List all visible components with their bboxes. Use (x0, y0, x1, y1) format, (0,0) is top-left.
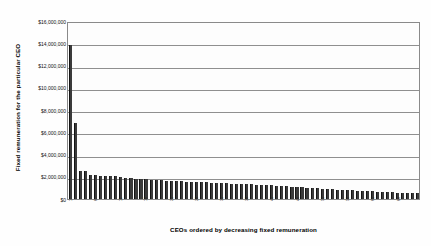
bar (69, 45, 72, 199)
y-axis-tick-labels: $16,000,000$14,000,000$12,000,000$10,000… (18, 0, 66, 246)
x-axis-tick-label: 56 (347, 197, 351, 201)
bar (416, 193, 419, 199)
chart-container: Fixed remuneration for the particular CE… (0, 0, 431, 246)
bar (129, 178, 132, 199)
bar (361, 191, 364, 199)
bar (351, 190, 354, 199)
x-axis-tick-label: 11 (120, 197, 124, 201)
bar (119, 177, 122, 199)
bar (250, 184, 253, 199)
bar (94, 175, 97, 199)
plot-area (67, 22, 420, 200)
x-axis-tick-label: 6 (95, 199, 99, 201)
y-axis-tick-label: $0 (18, 198, 66, 203)
bar (109, 176, 112, 199)
y-axis-tick-label: $10,000,000 (18, 86, 66, 91)
bar (331, 189, 334, 199)
bar (155, 180, 158, 199)
bar (255, 185, 258, 199)
y-axis-tick-label: $14,000,000 (18, 42, 66, 47)
bar (190, 182, 193, 199)
bar (240, 184, 243, 199)
y-axis-tick-label: $12,000,000 (18, 64, 66, 69)
x-axis-tick-label: 21 (171, 197, 175, 201)
bar (366, 191, 369, 199)
y-axis-tick-label: $4,000,000 (18, 153, 66, 158)
bar (280, 186, 283, 199)
bar (376, 192, 379, 199)
x-axis-tick-label: 66 (398, 197, 402, 201)
y-axis-tick-label: $16,000,000 (18, 20, 66, 25)
x-axis-tick-label: 26 (196, 197, 200, 201)
bar (104, 176, 107, 199)
bar (139, 179, 142, 199)
bar (84, 171, 87, 199)
bar (391, 192, 394, 199)
bar (265, 185, 268, 199)
bar (326, 189, 329, 199)
x-axis-tick-label: 61 (372, 197, 376, 201)
bar (230, 184, 233, 199)
bar (285, 186, 288, 199)
bar (411, 193, 414, 199)
bar (225, 183, 228, 199)
bar (305, 188, 308, 199)
bar (356, 191, 359, 199)
x-axis-tick-label: 41 (271, 197, 275, 201)
bar (260, 185, 263, 199)
bar (311, 188, 314, 199)
bar (134, 179, 137, 199)
bar (341, 190, 344, 199)
bar (185, 182, 188, 199)
bar (316, 188, 319, 199)
bar (175, 181, 178, 199)
bar (300, 187, 303, 199)
bar (124, 178, 127, 199)
bar (235, 184, 238, 199)
bar (165, 181, 168, 199)
bar (215, 183, 218, 199)
bar (386, 192, 389, 199)
x-axis-tick-label: 46 (297, 197, 301, 201)
x-axis-tick-label: 51 (322, 197, 326, 201)
x-axis-tick-label: 16 (145, 197, 149, 201)
bar (336, 190, 339, 199)
x-axis-title: CEOs ordered by decreasing fixed remuner… (67, 226, 420, 233)
y-axis-tick-label: $2,000,000 (18, 175, 66, 180)
bar (79, 171, 82, 199)
bar (406, 193, 409, 199)
x-axis-tick-label: 36 (246, 197, 250, 201)
bar (210, 183, 213, 199)
bar (160, 180, 163, 199)
bar (99, 176, 102, 199)
bar (205, 182, 208, 199)
bar-series (68, 23, 419, 199)
x-axis-tick-label: 1 (70, 199, 74, 201)
bar (290, 187, 293, 199)
bar (89, 175, 92, 199)
bar (381, 192, 384, 199)
y-axis-tick-label: $8,000,000 (18, 109, 66, 114)
bar (200, 182, 203, 199)
x-axis-tick-labels: 16111621263136414651566166 (67, 201, 420, 219)
bar (114, 176, 117, 199)
x-axis-tick-label: 31 (221, 197, 225, 201)
bar (150, 180, 153, 199)
bar (74, 123, 77, 199)
bar (275, 186, 278, 199)
bar (180, 181, 183, 199)
y-axis-tick-label: $6,000,000 (18, 131, 66, 136)
